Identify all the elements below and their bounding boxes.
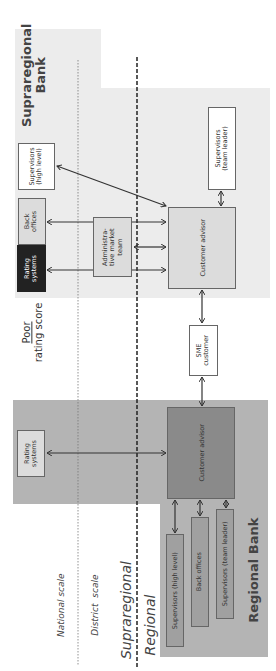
supra-customer-advisor: Customer advisor	[168, 207, 236, 289]
sme-customer: SME customer	[189, 325, 218, 376]
national-scale-label: National scale	[50, 560, 72, 650]
supra-supervisors-team-leader: Supervisors (team leader)	[208, 107, 236, 190]
supraregional-bank-title-text: Supraregional Bank	[21, 23, 50, 127]
regional-supervisors-team-leader: Supervisors (team leader)	[216, 509, 234, 619]
supra-supervisors-high-level: Supervisors (high level)	[18, 143, 55, 190]
regional-scale-label: Regional	[140, 585, 162, 665]
supra-back-offices: Back offices	[18, 198, 46, 245]
regional-rating-systems: Rating systems	[17, 430, 45, 477]
poor-rating-score-label: Poor rating score	[18, 292, 48, 372]
supraregional-bank-title: Supraregional Bank	[18, 30, 52, 120]
supra-rating-systems: Rating systems	[17, 245, 46, 292]
regional-bank-title: Regional Bank	[244, 500, 266, 640]
regional-back-offices: Back offices	[191, 517, 209, 627]
regional-customer-advisor: Customer advisor	[167, 407, 235, 499]
supra-admin-market-team: Administra- tive market team	[93, 217, 132, 277]
district-scale-label: District scale	[85, 565, 107, 645]
supraregional-scale-label: Supraregional	[115, 555, 137, 665]
regional-supervisors-high-level: Supervisors (high level)	[166, 534, 184, 647]
